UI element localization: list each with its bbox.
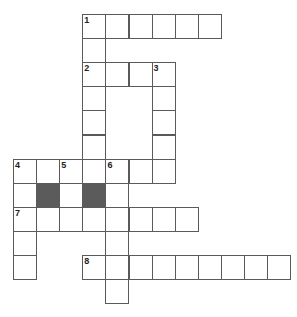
crossword-cell[interactable] [82,38,106,63]
crossword-cell[interactable] [82,159,106,184]
crossword-cell[interactable] [152,14,176,39]
crossword-cell[interactable] [129,62,153,87]
crossword-cell[interactable] [198,255,222,280]
crossword-cell[interactable] [152,110,176,135]
crossword-cell[interactable] [152,86,176,111]
crossword-cell[interactable] [129,255,153,280]
clue-number: 7 [15,208,20,218]
crossword-cell[interactable] [152,207,176,232]
crossword-cell[interactable] [13,231,37,256]
crossword-cell[interactable] [82,135,106,160]
crossword-cell[interactable] [152,255,176,280]
crossword-cell[interactable] [13,183,37,208]
crossword-cell[interactable] [105,183,129,208]
crossword-cell[interactable] [198,14,222,39]
crossword-cell[interactable] [82,207,106,232]
clue-number: 2 [84,63,89,73]
crossword-cell[interactable] [129,14,153,39]
crossword-cell[interactable] [105,62,129,87]
clue-number: 5 [61,160,66,170]
crossword-cell[interactable] [36,159,60,184]
crossword-cell[interactable] [221,255,245,280]
crossword-cell[interactable] [175,14,199,39]
clue-number: 4 [15,160,20,170]
crossword-cell[interactable] [129,207,153,232]
crossword-cell[interactable]: 3 [152,62,176,87]
crossword-cell[interactable]: 1 [82,14,106,39]
crossword-cell[interactable] [175,207,199,232]
clue-number: 1 [84,15,89,25]
crossword-cell[interactable] [152,159,176,184]
crossword-cell[interactable]: 8 [82,255,106,280]
crossword-cell[interactable] [59,183,83,208]
crossword-cell[interactable] [267,255,291,280]
crossword-cell[interactable] [175,255,199,280]
crossword-cell[interactable] [129,159,153,184]
clue-number: 3 [154,63,159,73]
clue-number: 8 [84,256,89,266]
crossword-cell[interactable]: 2 [82,62,106,87]
block-cell [36,183,60,208]
crossword-grid: 12345678 [0,0,297,317]
crossword-cell[interactable] [82,110,106,135]
crossword-cell[interactable]: 5 [59,159,83,184]
clue-number: 6 [107,160,112,170]
crossword-cell[interactable] [13,255,37,280]
crossword-cell[interactable]: 7 [13,207,37,232]
block-cell [82,183,106,208]
crossword-cell[interactable] [152,135,176,160]
crossword-cell[interactable]: 6 [105,159,129,184]
crossword-cell[interactable] [105,279,129,304]
crossword-cell[interactable]: 4 [13,159,37,184]
crossword-cell[interactable] [244,255,268,280]
crossword-cell[interactable] [59,207,83,232]
crossword-cell[interactable] [105,231,129,256]
crossword-cell[interactable] [82,86,106,111]
crossword-cell[interactable] [105,14,129,39]
crossword-cell[interactable] [105,255,129,280]
crossword-cell[interactable] [36,207,60,232]
crossword-cell[interactable] [105,207,129,232]
